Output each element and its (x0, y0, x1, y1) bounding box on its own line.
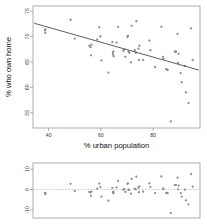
y-tick-label: 60 (24, 84, 30, 90)
x-tick-label: 80 (150, 132, 156, 138)
residual-data-point (187, 203, 189, 205)
main-scatter-panel: 5560657075406080% urban population% who … (4, 6, 200, 150)
data-point (134, 49, 136, 51)
x-tick-label: 40 (46, 132, 52, 138)
residual-data-point (154, 192, 156, 194)
residual-data-point (177, 188, 179, 190)
residual-data-point (117, 180, 119, 182)
residual-data-point (111, 187, 113, 189)
residual-data-point (180, 192, 182, 194)
residual-y-tick-label: -10 (24, 206, 30, 214)
residual-data-point (113, 192, 115, 194)
data-point (181, 81, 183, 83)
residual-data-point (148, 182, 150, 184)
residual-data-point (127, 182, 129, 184)
residual-data-point (123, 188, 125, 190)
data-point (166, 69, 168, 71)
data-point (176, 33, 178, 35)
data-point (90, 43, 92, 45)
data-point (160, 26, 162, 28)
residual-data-point (128, 189, 130, 191)
data-point (149, 49, 151, 51)
residual-data-point (162, 188, 164, 190)
residual-data-point (124, 191, 126, 193)
residual-data-point (107, 200, 109, 202)
data-point (177, 53, 179, 55)
y-tick-label: 65 (24, 59, 30, 65)
y-axis-label: % who own home (4, 37, 13, 97)
figure-root: 5560657075406080% urban population% who … (0, 0, 207, 224)
data-point (117, 26, 119, 28)
residual-data-point (176, 177, 178, 179)
data-point (90, 54, 92, 56)
residual-data-point (74, 190, 76, 192)
x-tick-label: 60 (98, 132, 104, 138)
residual-data-point (170, 212, 172, 214)
data-point (138, 45, 140, 47)
data-point (115, 41, 117, 43)
data-point (44, 32, 46, 34)
regression-line (34, 23, 198, 70)
data-point (128, 52, 130, 54)
residual-data-point (44, 192, 46, 194)
residual-data-point (142, 191, 144, 193)
data-point (142, 59, 144, 61)
residual-data-point (99, 186, 101, 188)
residual-data-point (160, 175, 162, 177)
residual-data-point (69, 183, 71, 185)
data-point (187, 102, 189, 104)
residual-data-point (135, 176, 137, 178)
data-point (192, 59, 194, 61)
data-point (112, 55, 114, 57)
residual-data-point (90, 195, 92, 197)
residual-data-point (100, 196, 102, 198)
data-point (154, 66, 156, 68)
residual-data-point (178, 185, 180, 187)
residual-data-point (138, 191, 140, 193)
residual-y-tick-label: 0 (24, 188, 30, 191)
main-plot-frame (33, 6, 200, 128)
y-tick-label: 75 (24, 8, 30, 14)
data-point (107, 71, 109, 73)
data-point (127, 35, 129, 37)
data-point (111, 41, 113, 43)
residual-data-point (115, 186, 117, 188)
y-tick-label: 55 (24, 110, 30, 116)
residual-data-point (149, 186, 151, 188)
residual-data-point (90, 190, 92, 192)
data-point (74, 37, 76, 39)
data-point (69, 19, 71, 21)
residual-data-point (135, 188, 137, 190)
residual-scatter-panel: -10010 (24, 163, 200, 218)
data-point (99, 35, 101, 37)
residual-data-point (96, 188, 98, 190)
residual-data-point (98, 182, 100, 184)
residual-data-point (192, 186, 194, 188)
residual-data-point (167, 192, 169, 194)
residual-data-point (131, 178, 133, 180)
data-point (98, 26, 100, 28)
data-point (190, 27, 192, 29)
data-point (124, 56, 126, 58)
data-point (130, 61, 132, 63)
data-point (162, 56, 164, 58)
data-point (180, 72, 182, 74)
residual-data-point (181, 196, 183, 198)
data-point (175, 51, 177, 53)
residual-data-point (190, 173, 192, 175)
residual-data-point (138, 185, 140, 187)
residual-data-point (130, 192, 132, 194)
data-point (137, 48, 139, 50)
data-point (89, 46, 91, 48)
data-point (148, 39, 150, 41)
x-axis-label: % urban population (84, 141, 149, 150)
data-point (135, 20, 137, 22)
data-point (100, 59, 102, 61)
y-tick-label: 70 (24, 34, 30, 40)
residual-data-point (184, 189, 186, 191)
data-point (130, 25, 132, 27)
residual-plot-frame (33, 163, 200, 218)
residual-y-tick-label: 10 (24, 166, 30, 172)
data-point (138, 59, 140, 61)
residual-data-point (175, 184, 177, 186)
